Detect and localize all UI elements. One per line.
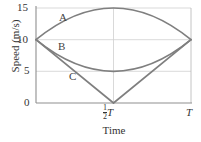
- ytick-label-5: 5: [24, 64, 30, 76]
- fraction-denominator: 2: [103, 112, 107, 121]
- xtick-label-half-t: 12T: [103, 105, 113, 122]
- fraction-numerator: 1: [103, 104, 107, 112]
- curve-label-a: A: [59, 11, 67, 23]
- xtick-label-t: T: [186, 106, 192, 118]
- y-axis-title: Speed (m/s): [9, 4, 21, 88]
- fraction-one-half: 12: [103, 104, 107, 121]
- speed-time-chart: 15 10 5 0 12T T A B C Speed (m/s) Time: [0, 0, 201, 142]
- curve-label-b: B: [58, 40, 65, 52]
- xtick-symbol-t: T: [107, 106, 113, 118]
- plot-area: [0, 0, 201, 142]
- x-axis-title: Time: [36, 124, 192, 136]
- curve-label-c: C: [69, 70, 76, 82]
- ytick-label-0: 0: [24, 96, 30, 108]
